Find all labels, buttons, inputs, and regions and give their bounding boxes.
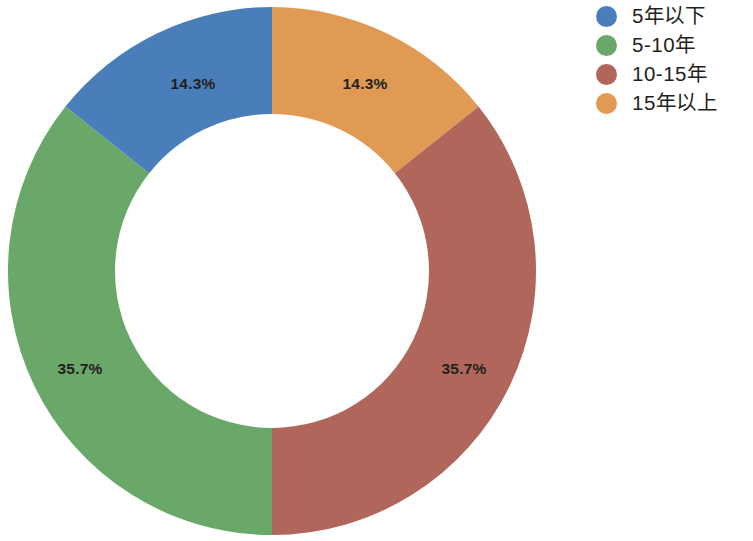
legend-swatch-icon <box>596 93 617 114</box>
donut-chart: 14.3%35.7%35.7%14.3% 5年以下5-10年10-15年15年以… <box>0 0 753 541</box>
donut-svg: 14.3%35.7%35.7%14.3% <box>0 0 560 541</box>
legend-item[interactable]: 10-15年 <box>596 60 753 89</box>
donut-slice[interactable] <box>8 107 272 535</box>
legend-item-label: 5-10年 <box>632 35 696 56</box>
donut-slices <box>8 7 536 535</box>
slice-percentage-label: 14.3% <box>171 75 216 92</box>
legend-item-label: 5年以下 <box>632 6 705 27</box>
legend-swatch-icon <box>596 6 617 27</box>
legend-swatch-icon <box>596 64 617 85</box>
legend-item[interactable]: 15年以上 <box>596 89 753 118</box>
slice-percentage-label: 35.7% <box>58 360 103 377</box>
slice-percentage-label: 35.7% <box>442 360 487 377</box>
donut-plot-area: 14.3%35.7%35.7%14.3% <box>0 0 560 541</box>
legend-item[interactable]: 5-10年 <box>596 31 753 60</box>
legend-item-label: 15年以上 <box>632 93 717 114</box>
chart-legend: 5年以下5-10年10-15年15年以上 <box>596 2 753 118</box>
legend-swatch-icon <box>596 35 617 56</box>
legend-item[interactable]: 5年以下 <box>596 2 753 31</box>
donut-slice[interactable] <box>272 107 536 535</box>
slice-percentage-label: 14.3% <box>343 75 388 92</box>
legend-item-label: 10-15年 <box>632 64 707 85</box>
